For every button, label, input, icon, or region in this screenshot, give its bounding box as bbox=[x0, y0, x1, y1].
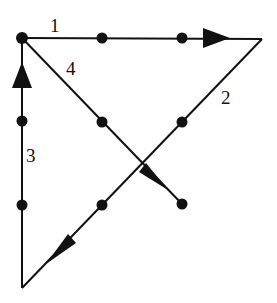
node-diag2-lower bbox=[97, 200, 108, 211]
node-branch-end bbox=[177, 199, 188, 210]
arrowhead-edge-3-icon bbox=[12, 62, 32, 88]
node-left-mid-1 bbox=[17, 116, 28, 127]
edge-label-1: 1 bbox=[50, 16, 60, 35]
node-top-mid-2 bbox=[177, 33, 188, 44]
node-diag4-mid bbox=[97, 117, 108, 128]
arrowhead-edge-1-icon bbox=[203, 28, 230, 48]
edge-label-4: 4 bbox=[66, 59, 76, 78]
node-left-mid-2 bbox=[17, 200, 28, 211]
node-top-mid-1 bbox=[97, 33, 108, 44]
arrowhead-edge-2-icon bbox=[46, 234, 76, 264]
node-top-left bbox=[16, 32, 28, 44]
arrowhead-edge-4-icon bbox=[139, 163, 168, 190]
node-diag2-upper bbox=[177, 117, 188, 128]
edge-label-2: 2 bbox=[221, 88, 231, 107]
edge-label-3: 3 bbox=[26, 146, 36, 165]
diagram-canvas: 1 4 2 3 bbox=[0, 0, 277, 303]
vector-figure bbox=[0, 0, 277, 303]
